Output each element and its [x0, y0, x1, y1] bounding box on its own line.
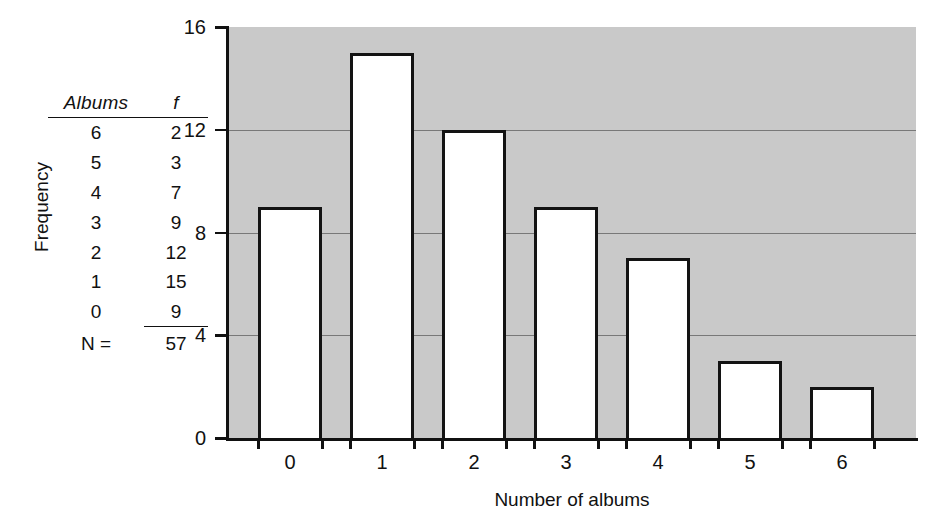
- x-axis-tick: [689, 438, 692, 449]
- x-axis-tick-label: 2: [454, 452, 494, 472]
- bar: [718, 361, 782, 438]
- x-axis-tick: [349, 438, 352, 449]
- y-axis-tick: [215, 129, 228, 132]
- x-axis-tick: [533, 438, 536, 449]
- bar: [626, 258, 690, 438]
- plot-area: [228, 27, 916, 438]
- x-axis-tick: [505, 438, 508, 449]
- x-axis-tick: [257, 438, 260, 449]
- x-axis-tick: [441, 438, 444, 449]
- x-axis-tick: [597, 438, 600, 449]
- x-axis-tick: [781, 438, 784, 449]
- x-axis-tick: [625, 438, 628, 449]
- x-axis-label: Number of albums: [228, 489, 916, 511]
- x-axis-tick-label: 1: [362, 452, 402, 472]
- y-axis-tick-label: 4: [178, 325, 206, 345]
- bar: [258, 207, 322, 438]
- x-axis-tick: [717, 438, 720, 449]
- y-axis-tick: [215, 232, 228, 235]
- x-axis-tick: [321, 438, 324, 449]
- histogram-chart: 0481216 0123456 Frequency Number of albu…: [0, 0, 936, 525]
- gridline: [228, 130, 916, 131]
- x-axis-tick: [413, 438, 416, 449]
- y-axis-tick-label: 12: [178, 120, 206, 140]
- x-axis-tick-label: 3: [546, 452, 586, 472]
- y-axis-tick-label: 16: [178, 17, 206, 37]
- x-axis-tick-label: 0: [270, 452, 310, 472]
- x-axis-tick: [873, 438, 876, 449]
- y-axis-tick: [215, 334, 228, 337]
- y-axis-tick: [215, 26, 228, 29]
- y-axis-tick: [215, 437, 228, 440]
- x-axis-tick: [809, 438, 812, 449]
- x-axis-tick-label: 6: [822, 452, 862, 472]
- x-axis-tick-label: 5: [730, 452, 770, 472]
- bar: [350, 53, 414, 438]
- y-axis-tick-label: 0: [178, 428, 206, 448]
- bar: [810, 387, 874, 438]
- y-axis-tick-label: 8: [178, 223, 206, 243]
- y-axis-label: Frequency: [31, 137, 53, 277]
- bar: [534, 207, 598, 438]
- x-axis-line: [226, 438, 918, 441]
- x-axis-tick-label: 4: [638, 452, 678, 472]
- bar: [442, 130, 506, 438]
